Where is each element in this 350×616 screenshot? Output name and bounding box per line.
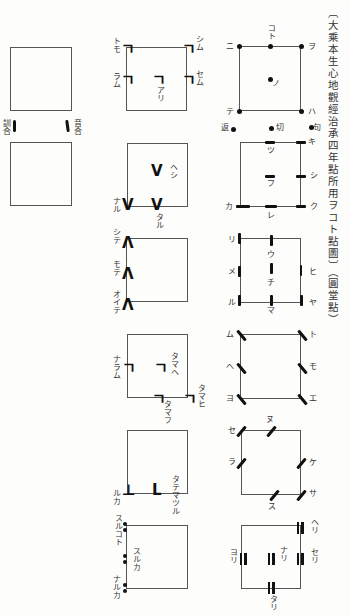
label: ク bbox=[310, 203, 318, 211]
mark: V bbox=[151, 164, 163, 179]
bar bbox=[236, 205, 250, 208]
label: シテ bbox=[111, 228, 119, 244]
bar bbox=[268, 582, 275, 594]
mark: ㄱ bbox=[182, 73, 196, 88]
mark: Λ bbox=[122, 236, 134, 251]
label: キ bbox=[308, 138, 316, 146]
label: ヌ bbox=[266, 416, 274, 424]
label: ルカ bbox=[111, 489, 119, 505]
label: チ bbox=[267, 279, 275, 287]
bar bbox=[265, 205, 277, 208]
label: ヤ bbox=[309, 299, 317, 307]
dot bbox=[123, 528, 127, 532]
dot bbox=[237, 44, 242, 49]
label: ヲ bbox=[308, 43, 316, 51]
label: シ bbox=[310, 172, 318, 180]
bar bbox=[300, 295, 303, 306]
label: リ bbox=[228, 236, 236, 244]
dot bbox=[123, 522, 127, 526]
bar bbox=[270, 295, 273, 306]
bar bbox=[238, 266, 241, 277]
dot bbox=[268, 44, 273, 49]
label: ナリ bbox=[278, 546, 286, 562]
mark: V bbox=[122, 198, 134, 213]
label: ウ bbox=[267, 251, 275, 259]
label: 句 bbox=[313, 124, 321, 132]
label: ヒ bbox=[309, 268, 317, 276]
label: ニ bbox=[226, 43, 234, 51]
bar bbox=[296, 141, 306, 144]
label: ナル bbox=[111, 197, 119, 213]
label: スルカ bbox=[131, 547, 139, 571]
label: モ bbox=[309, 363, 317, 371]
label: セ bbox=[228, 427, 236, 435]
mark: ㄱ bbox=[121, 73, 135, 88]
bar bbox=[297, 553, 304, 565]
dot bbox=[123, 583, 127, 587]
label: サ bbox=[309, 490, 317, 498]
label: テ bbox=[226, 108, 234, 116]
label: ラム bbox=[111, 72, 119, 88]
dot bbox=[231, 127, 236, 132]
label: ケ bbox=[309, 459, 317, 467]
bar bbox=[300, 265, 302, 276]
legend-label-on: 音合 bbox=[72, 119, 80, 135]
label: レ bbox=[267, 212, 275, 220]
bar bbox=[296, 175, 306, 178]
dot bbox=[269, 126, 274, 131]
label: ヨリ bbox=[228, 548, 236, 564]
label: ラ bbox=[228, 458, 236, 466]
mark: ㄱ bbox=[152, 392, 166, 407]
legend-box-upper bbox=[10, 47, 72, 111]
mark: ⊥ bbox=[122, 483, 136, 498]
label: 切 bbox=[276, 124, 284, 132]
label: ナルカ bbox=[111, 575, 119, 599]
bar bbox=[238, 295, 241, 306]
mark: Λ bbox=[122, 267, 134, 282]
label: ツ bbox=[267, 147, 275, 155]
label: エ bbox=[309, 395, 317, 403]
label: セリ bbox=[309, 548, 317, 564]
bar bbox=[296, 205, 306, 208]
dot bbox=[123, 554, 127, 558]
label: ト bbox=[309, 331, 317, 339]
mark: ㄱ bbox=[152, 73, 166, 88]
label: タル bbox=[154, 213, 162, 229]
label: ヨ bbox=[226, 395, 234, 403]
label: ヘ bbox=[226, 363, 234, 371]
label: ナラム bbox=[111, 355, 119, 379]
dot bbox=[237, 109, 242, 114]
dot bbox=[299, 109, 304, 114]
label: ム bbox=[226, 331, 234, 339]
legend-box-lower bbox=[10, 142, 72, 206]
mark: V bbox=[151, 198, 163, 213]
label: 返 bbox=[221, 124, 229, 132]
bar bbox=[268, 553, 275, 565]
label: ハ bbox=[308, 108, 316, 116]
legend-mark-on bbox=[65, 120, 70, 132]
mark: L bbox=[152, 483, 162, 498]
mark: ㄱ bbox=[122, 361, 136, 376]
label: タテマツル bbox=[170, 475, 178, 515]
dot bbox=[309, 125, 314, 130]
label: メ bbox=[228, 268, 236, 276]
mark: ㄱ bbox=[182, 42, 196, 57]
bar bbox=[270, 263, 273, 274]
dot bbox=[299, 44, 304, 49]
dot bbox=[123, 560, 127, 564]
label: タマヘ bbox=[169, 352, 177, 376]
dot bbox=[123, 589, 127, 593]
mark: Λ bbox=[122, 298, 134, 313]
label: タマヒ bbox=[196, 384, 204, 408]
label: ス bbox=[268, 503, 276, 511]
label: スルコト bbox=[113, 514, 121, 546]
label: カ bbox=[225, 203, 233, 211]
bar bbox=[297, 522, 304, 534]
bar bbox=[238, 233, 241, 244]
label: マ bbox=[267, 307, 275, 315]
mark: ㄱ bbox=[183, 392, 197, 407]
stroke bbox=[297, 394, 308, 406]
col2-diagram-4 bbox=[240, 334, 301, 399]
legend-label-kun: 訓合 bbox=[1, 119, 9, 135]
label: タリ bbox=[268, 595, 276, 611]
